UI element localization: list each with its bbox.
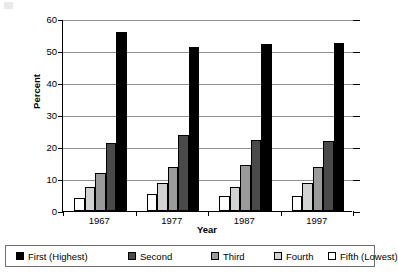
scan-artifact	[4, 2, 13, 9]
legend-item: Second	[128, 251, 172, 262]
plot-area: 01020304050601967197719871997	[62, 20, 352, 212]
bar	[292, 196, 303, 211]
bar-group: 1987	[208, 19, 281, 211]
bar-group: 1967	[63, 19, 136, 211]
y-axis-tick-right	[353, 52, 360, 53]
legend-label: Fourth	[286, 251, 313, 262]
legend-swatch	[274, 252, 282, 260]
bar	[323, 141, 334, 211]
y-axis-tick-label: 60	[31, 15, 57, 25]
y-axis-tick-right	[353, 180, 360, 181]
y-axis-tick-label: 0	[31, 207, 57, 217]
y-axis-tick-label: 20	[31, 143, 57, 153]
legend-item: Fourth	[274, 251, 313, 262]
legend-item: Fifth (Lowest)	[328, 251, 398, 262]
chart-legend: First (Highest)SecondThirdFourthFifth (L…	[5, 245, 375, 267]
y-axis-tick-right	[353, 116, 360, 117]
bar	[261, 44, 272, 211]
bar	[230, 187, 241, 211]
bar	[334, 43, 345, 211]
legend-label: Second	[140, 251, 172, 262]
y-axis-tick-right	[353, 148, 360, 149]
legend-swatch	[211, 252, 219, 260]
y-axis-tick-label: 50	[31, 47, 57, 57]
bar	[313, 167, 324, 211]
legend-item: First (Highest)	[16, 251, 88, 262]
bar	[302, 183, 313, 211]
bar	[251, 140, 262, 211]
bar	[157, 183, 168, 211]
x-axis-tick	[353, 211, 354, 216]
legend-item: Third	[211, 251, 245, 262]
legend-label: Fifth (Lowest)	[340, 251, 398, 262]
legend-swatch	[328, 252, 336, 260]
legend-swatch	[128, 252, 136, 260]
bar	[189, 47, 200, 211]
bar	[240, 165, 251, 211]
legend-label: First (Highest)	[28, 251, 88, 262]
y-axis-tick-right	[353, 212, 360, 213]
bar-group: 1977	[136, 19, 209, 211]
y-axis-tick-label: 30	[31, 111, 57, 121]
y-axis-tick-label: 10	[31, 175, 57, 185]
x-axis-title: Year	[62, 224, 352, 235]
legend-label: Third	[223, 251, 245, 262]
bar	[85, 187, 96, 211]
bar	[219, 196, 230, 211]
legend-swatch	[16, 252, 24, 260]
bar	[74, 198, 85, 211]
bar	[178, 135, 189, 211]
bar-group: 1997	[281, 19, 354, 211]
y-axis-tick-right	[353, 84, 360, 85]
y-axis-tick-label: 40	[31, 79, 57, 89]
y-axis-tick-right	[353, 20, 360, 21]
bar	[147, 194, 158, 211]
bar	[168, 167, 179, 211]
bar	[106, 143, 117, 211]
bar	[95, 173, 106, 211]
bar	[116, 32, 127, 211]
